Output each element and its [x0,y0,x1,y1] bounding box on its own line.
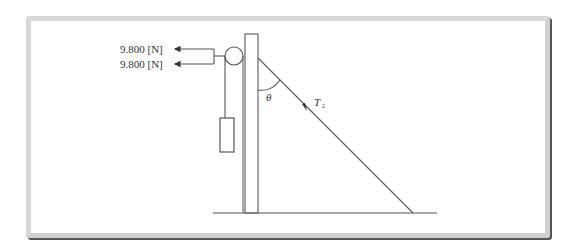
pulley [225,47,243,65]
guy-wire [258,58,413,213]
angle-arc [258,80,280,90]
tension-symbol: T [314,96,321,108]
force-label-2: 9.800 [N] [120,58,163,70]
force-label-1: 9.800 [N] [120,43,163,55]
hanging-weight [220,118,234,152]
diagram-canvas: 9.800 [N] 9.800 [N] θ T 2 [0,0,567,245]
tension-subscript: 2 [322,103,325,109]
angle-label: θ [266,91,272,103]
tension-label: T [314,96,321,108]
pole [245,34,258,213]
